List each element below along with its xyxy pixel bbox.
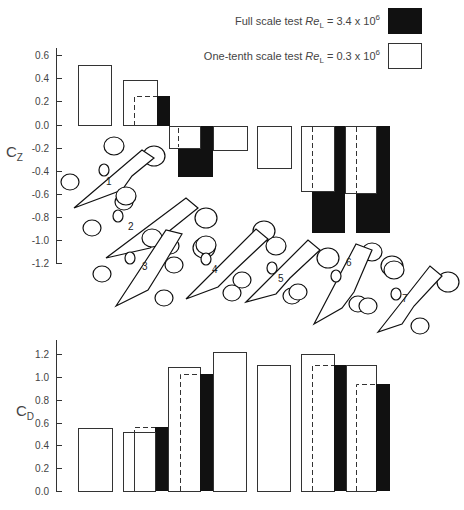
legend-full-scale-label: Full scale test ReL = 3.4 x 106 <box>235 13 381 30</box>
legend-tenth-scale-label: One-tenth scale test ReL = 0.3 x 106 <box>204 48 381 65</box>
cz-bar-6-tenth <box>302 127 335 192</box>
tick-label: -1.0 <box>32 235 50 246</box>
car-1: 1 <box>61 137 165 210</box>
cd-axis-label: CD <box>16 402 34 422</box>
tick-label: 0.2 <box>35 96 49 107</box>
tick-label: 1.0 <box>35 372 49 383</box>
tick-label: 0.0 <box>35 120 49 131</box>
cd-bar-2-full <box>155 427 168 491</box>
cd-bar-7-full <box>376 384 390 491</box>
car-7-label: 7 <box>402 293 408 304</box>
cz-bar-2-tenth <box>124 81 158 126</box>
cz-tick-labels: 0.6 0.4 0.2 0.0 -0.2 -0.4 -0.6 -0.8 -1.0… <box>32 50 50 269</box>
cd-tick-labels: 1.2 1.0 0.8 0.6 0.4 0.2 0.0 <box>35 349 49 497</box>
tick-label: 0.4 <box>35 73 49 84</box>
car-3-label: 3 <box>142 261 148 272</box>
car-7: 7 <box>359 261 459 334</box>
cd-bars <box>79 353 391 492</box>
tick-label: 1.2 <box>35 349 49 360</box>
tick-label: 0.4 <box>35 440 49 451</box>
tick-label: 0.0 <box>35 486 49 497</box>
cd-bar-2-tenth <box>124 433 156 492</box>
cd-bar-3-tenth <box>169 368 201 492</box>
cz-bar-4-tenth <box>214 127 248 151</box>
tick-label: -0.8 <box>32 212 50 223</box>
tick-label: 0.6 <box>35 50 49 61</box>
tick-label: -1.2 <box>32 258 50 269</box>
cz-bar-1-tenth <box>79 66 112 126</box>
cz-axis-label: CZ <box>6 143 23 163</box>
car-2-label: 2 <box>128 221 134 232</box>
legend-full-scale-swatch <box>388 8 422 34</box>
tick-label: -0.2 <box>32 143 50 154</box>
car-4-label: 4 <box>212 264 218 275</box>
car-5-label: 5 <box>278 273 284 284</box>
cd-bar-3-full <box>200 374 213 491</box>
cd-bar-6-full <box>334 365 346 491</box>
cd-bar-4-tenth <box>214 353 247 492</box>
cz-bar-3-tenth <box>170 127 201 149</box>
car-6-label: 6 <box>346 257 352 268</box>
tick-label: 0.2 <box>35 463 49 474</box>
cz-bar-2-full <box>157 96 170 126</box>
tick-label: -0.4 <box>32 166 50 177</box>
tick-label: 0.6 <box>35 418 49 429</box>
cz-bar-7-tenth <box>346 127 377 194</box>
legend: Full scale test ReL = 3.4 x 106 One-tent… <box>204 8 422 69</box>
cd-bar-6-tenth <box>302 355 335 492</box>
legend-tenth-scale-swatch <box>389 44 422 69</box>
car-1-label: 1 <box>106 176 112 187</box>
cz-bar-5-tenth <box>258 127 292 169</box>
cd-bar-1-tenth <box>79 429 113 492</box>
figure: Full scale test ReL = 3.4 x 106 One-tent… <box>0 0 464 510</box>
cd-axis <box>56 340 62 492</box>
cz-axis <box>56 48 62 264</box>
tick-label: -0.6 <box>32 189 50 200</box>
cd-bar-5-tenth <box>258 366 291 492</box>
tick-label: 0.8 <box>35 395 49 406</box>
